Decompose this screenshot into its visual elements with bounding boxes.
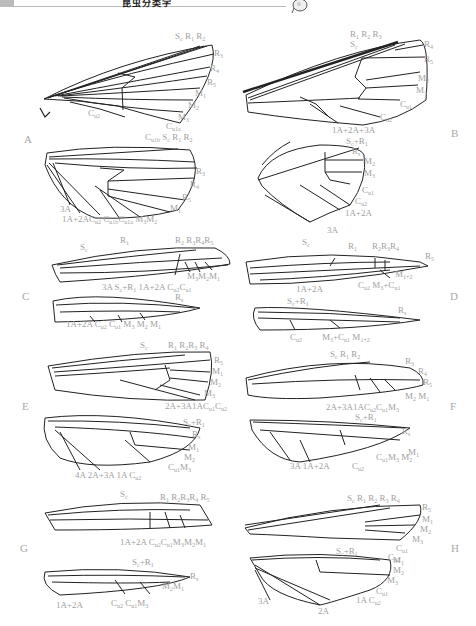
vein-label: R5 bbox=[182, 193, 191, 203]
vein-label: Cu1M3 M2 bbox=[376, 453, 412, 463]
panel-letter-A: A bbox=[24, 133, 32, 145]
vein-label: Rs bbox=[190, 572, 198, 582]
vein-label: Sc bbox=[120, 490, 128, 500]
vein-label: M3 bbox=[204, 389, 215, 399]
vein-label: M3 bbox=[412, 535, 423, 545]
vein-label: M2 bbox=[210, 378, 221, 388]
vein-label: Sc+R1 bbox=[336, 547, 358, 557]
vein-label: Sc bbox=[140, 341, 148, 351]
wing-H-forewing bbox=[245, 505, 421, 540]
vein-label: R5 bbox=[422, 503, 431, 513]
vein-label: 3A 1A+2A bbox=[290, 462, 330, 471]
vein-label: Cu2 M3+Cu1 bbox=[358, 281, 400, 291]
vein-label: 1A+2ACu2 Cu1bCu1a M3M2 bbox=[62, 215, 157, 225]
vein-label: Sc R1 R2 bbox=[175, 32, 205, 42]
vein-label: Sc bbox=[302, 238, 310, 248]
panel-letter-C: C bbox=[22, 290, 29, 302]
panel-letter-E: E bbox=[22, 400, 29, 412]
vein-label: Cu1M3 bbox=[168, 463, 191, 473]
vein-label: M1 bbox=[170, 204, 181, 214]
wing-B-forewing bbox=[243, 40, 427, 125]
wing-F-forewing bbox=[246, 362, 423, 399]
vein-label: R3 bbox=[196, 167, 205, 177]
vein-label: Sc+R1 bbox=[183, 418, 205, 428]
vein-label: M3+Cu1 M1+2 bbox=[322, 333, 370, 343]
vein-label: R2 R3R4R5 bbox=[175, 236, 213, 246]
vein-label: 1A+2A Cu2Cu1M3M2M1 bbox=[120, 538, 206, 548]
vein-label: M1 bbox=[212, 367, 223, 377]
vein-label: R1 bbox=[120, 236, 129, 246]
panel-letter-B: B bbox=[451, 127, 458, 139]
vein-label: Cu2 bbox=[380, 113, 392, 123]
panel-letter-H: H bbox=[451, 542, 459, 554]
panel-letter-F: F bbox=[450, 400, 456, 412]
panel-letter-G: G bbox=[20, 542, 28, 554]
vein-label: M2M1 bbox=[162, 582, 184, 592]
vein-label: M3M2M1 bbox=[187, 272, 220, 282]
wing-G-forewing bbox=[45, 503, 212, 530]
vein-label: Rs bbox=[352, 147, 360, 157]
vein-label: R5 bbox=[425, 252, 434, 262]
vein-label: Cu1a bbox=[166, 122, 181, 132]
vein-label: 4A 2A+3A 1A Cu2 bbox=[75, 471, 141, 481]
vein-label: Cu2 bbox=[290, 333, 302, 343]
vein-label: R2R3R4 bbox=[372, 242, 399, 252]
vein-label: Cu1b Sc R1 R2 bbox=[145, 133, 192, 143]
vein-label: Sc+R1 bbox=[355, 413, 377, 423]
vein-label: Sc+R1 bbox=[287, 297, 309, 307]
vein-label: 1A+2A bbox=[296, 285, 323, 294]
vein-label: M2 bbox=[420, 525, 431, 535]
vein-label: M2 bbox=[418, 74, 429, 84]
vein-label: R5 bbox=[424, 55, 433, 65]
vein-label: Sc+R1 bbox=[132, 558, 154, 568]
vein-label: R3 bbox=[405, 357, 414, 367]
vein-label: 2A bbox=[318, 607, 329, 616]
vein-label: 1A Cu2 bbox=[356, 596, 381, 606]
vein-label: 3A bbox=[327, 226, 338, 235]
vein-label: M1 bbox=[195, 89, 206, 99]
vein-label: R4 bbox=[418, 367, 427, 377]
vein-label: R4 bbox=[190, 180, 199, 190]
vein-label: Sc bbox=[80, 243, 88, 253]
vein-label: Rs bbox=[175, 293, 183, 303]
vein-label: R3 bbox=[214, 49, 223, 59]
vein-label: R4 bbox=[210, 64, 219, 74]
wing-E-forewing bbox=[48, 352, 212, 401]
vein-label: 3A bbox=[60, 205, 71, 214]
vein-label: Rs bbox=[192, 430, 200, 440]
vein-label: 1A+2A bbox=[345, 209, 372, 218]
vein-label: Rs bbox=[402, 427, 410, 437]
wing-E-hindwing bbox=[44, 416, 200, 470]
vein-label: R5 bbox=[423, 378, 432, 388]
vein-label: M3 bbox=[416, 86, 427, 96]
vein-label: Cu1 bbox=[362, 186, 374, 196]
vein-label: M3 bbox=[387, 576, 398, 586]
vein-label: Cu2 Cu1M3 bbox=[111, 599, 148, 609]
vein-label: 3A bbox=[258, 597, 269, 606]
vein-label: R1 R2R3R4 R5 bbox=[160, 493, 210, 503]
vein-label: 1A+2A bbox=[56, 601, 83, 610]
vein-label: M2 bbox=[188, 101, 199, 111]
vein-label: Cu2 bbox=[88, 109, 100, 119]
vein-label: Cu2 bbox=[355, 197, 367, 207]
vein-label: M1+2 bbox=[395, 270, 412, 280]
vein-label: M2 bbox=[364, 157, 375, 167]
wing-A-forewing bbox=[40, 45, 214, 123]
vein-label: R1 bbox=[348, 242, 357, 252]
vein-label: Sc bbox=[350, 40, 358, 50]
vein-label: Cu1 bbox=[400, 100, 412, 110]
vein-label: Rs bbox=[398, 306, 406, 316]
vein-label: M2 M1 bbox=[405, 392, 429, 402]
vein-label: Sc R1 R2 bbox=[330, 350, 360, 360]
vein-label: 1A+2A Cu2 Cu1 M3 M2 M1 bbox=[66, 320, 161, 330]
vein-label: R1 R2R3 R4 bbox=[168, 341, 209, 351]
vein-label: 1A+2A+3A bbox=[332, 126, 375, 135]
vein-label: 2A+3A1ACu1Cu2 bbox=[165, 402, 227, 412]
panel-letter-D: D bbox=[450, 290, 458, 302]
vein-label: Cu2 bbox=[352, 462, 364, 472]
vein-label: M3 bbox=[364, 169, 375, 179]
vein-label: R4 bbox=[424, 40, 433, 50]
vein-label: R5 bbox=[207, 78, 216, 88]
wing-D-hindwing bbox=[253, 308, 420, 331]
vein-label: Sc R1 R2 R3 R4 bbox=[347, 494, 400, 504]
